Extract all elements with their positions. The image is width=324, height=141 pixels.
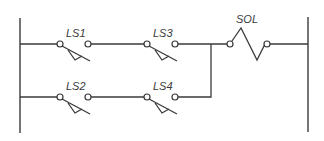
limit-switch-ls2: LS2 [57, 80, 91, 114]
rung-2: LS2 LS4 [20, 44, 211, 114]
label-ls4: LS4 [153, 80, 173, 92]
label-sol: SOL [236, 13, 258, 25]
branch-wire [178, 44, 211, 97]
terminal [85, 41, 91, 47]
solenoid-sol: SOL [227, 13, 270, 60]
label-ls1: LS1 [66, 27, 86, 39]
terminal [85, 94, 91, 100]
terminal [172, 94, 178, 100]
terminal [172, 41, 178, 47]
solenoid-coil-icon [232, 28, 266, 60]
limit-switch-ls3: LS3 [144, 27, 178, 61]
limit-switch-ls4: LS4 [144, 80, 178, 114]
terminal [227, 41, 233, 47]
terminal [264, 41, 270, 47]
rung-1: LS1 LS3 SOL [20, 13, 308, 61]
label-ls2: LS2 [66, 80, 86, 92]
label-ls3: LS3 [153, 27, 173, 39]
ladder-diagram: LS1 LS3 SOL LS2 [0, 0, 324, 141]
limit-switch-ls1: LS1 [57, 27, 91, 61]
